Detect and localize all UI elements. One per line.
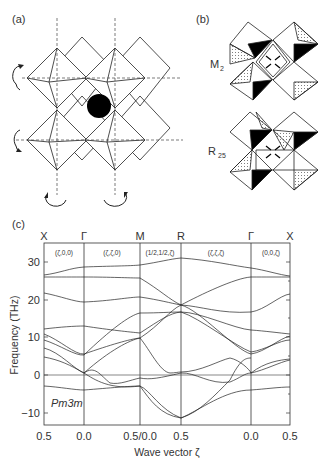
svg-text:R: R (177, 230, 185, 242)
x-axis-tick-labels: 0.5 0.0 0.5/0.0 0.5 0.0 0.5 (36, 430, 297, 442)
high-symmetry-labels: X Γ M R Γ X (40, 230, 294, 242)
segment-labels: (ζ,0,0) (ζ,ζ,0) (1/2,1/2,ζ) (ζ,ζ,ζ) (0,0… (55, 249, 280, 257)
r25-mode-structure (230, 112, 318, 190)
svg-text:Γ: Γ (81, 230, 87, 242)
svg-text:0: 0 (34, 369, 40, 381)
svg-text:(1/2,1/2,ζ): (1/2,1/2,ζ) (146, 249, 175, 257)
svg-text:0.0: 0.0 (76, 430, 91, 442)
m2-mode-structure (230, 22, 318, 100)
svg-text:(0,0,ζ): (0,0,ζ) (262, 249, 280, 257)
m2-mode-subscript: 2 (220, 65, 224, 72)
segment-dividers (84, 243, 251, 425)
panel-c-label: (c) (12, 218, 25, 230)
figure: (a) (b) (0, 0, 320, 461)
space-group-annotation: Pm3m (51, 397, 83, 409)
svg-text:0.5: 0.5 (36, 430, 51, 442)
y-axis-label: Frequency (THz) (8, 296, 20, 375)
svg-text:−10: −10 (21, 407, 40, 419)
svg-text:Γ: Γ (248, 230, 254, 242)
panel-a-label: (a) (12, 13, 25, 25)
svg-text:10: 10 (28, 331, 40, 343)
a-site-cation (87, 94, 111, 118)
y-axis-tick-labels: 30 20 10 0 −10 (21, 256, 40, 419)
svg-text:0.0: 0.0 (243, 430, 258, 442)
svg-text:20: 20 (28, 294, 40, 306)
svg-text:30: 30 (28, 256, 40, 268)
svg-text:(ζ,0,0): (ζ,0,0) (55, 249, 73, 257)
m2-mode-arrow-icons (266, 56, 280, 68)
r25-mode-label: R (208, 145, 216, 157)
arrow-head-icon (44, 192, 48, 198)
svg-text:0.5: 0.5 (173, 430, 188, 442)
svg-text:(ζ,ζ,ζ): (ζ,ζ,ζ) (208, 249, 225, 257)
m2-mode-label: M (210, 58, 219, 70)
svg-text:X: X (40, 230, 48, 242)
r25-mode-subscript: 25 (218, 152, 226, 159)
svg-text:(ζ,ζ,0): (ζ,ζ,0) (103, 249, 120, 257)
svg-text:X: X (286, 230, 294, 242)
svg-text:0.5/0.0: 0.5/0.0 (123, 430, 157, 442)
x-axis-label: Wave vector ζ (134, 446, 200, 458)
dispersion-curves (44, 258, 290, 418)
y-axis-ticks (44, 262, 290, 413)
arrow-head-icon (124, 192, 128, 198)
panel-b-label: (b) (196, 13, 209, 25)
svg-text:0.5: 0.5 (282, 430, 297, 442)
svg-text:M: M (135, 230, 144, 242)
r25-mode-arrow-icons (266, 146, 280, 158)
